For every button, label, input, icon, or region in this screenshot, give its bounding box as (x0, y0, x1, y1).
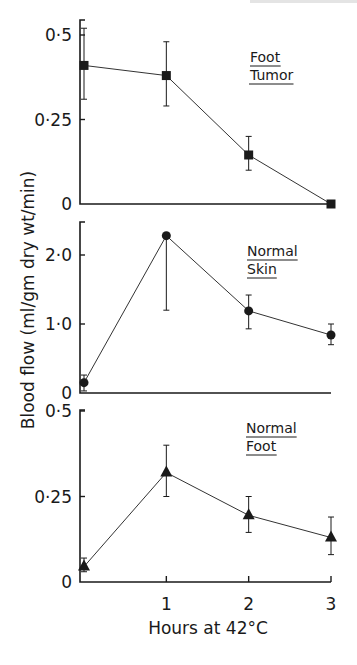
y-axis-title: Blood flow (ml/gm dry wt/min) (18, 171, 38, 429)
blood-flow-chart: 00·250·5FootTumor01·02·0NormalSkin00·250… (0, 0, 357, 665)
panel-label-line2: Tumor (249, 67, 294, 83)
circle-marker (244, 306, 253, 315)
y-tick-label: 0 (61, 572, 72, 592)
panel-label-line1: Normal (246, 420, 297, 436)
y-tick-label: 0 (61, 383, 72, 403)
x-tick-label: 1 (161, 594, 172, 614)
y-tick-label: 0·25 (34, 110, 72, 130)
panel-foot-tumor: 00·250·5FootTumor (34, 20, 335, 214)
square-marker (327, 200, 336, 209)
y-tick-label: 1·0 (45, 314, 72, 334)
panel-label-line1: Foot (250, 49, 281, 65)
circle-marker (327, 331, 336, 340)
x-tick-label: 3 (326, 594, 337, 614)
panel-label-line1: Normal (247, 243, 298, 259)
square-marker (80, 61, 89, 70)
y-tick-label: 0·25 (34, 487, 72, 507)
series-line (84, 473, 331, 567)
axis-lines (80, 20, 331, 204)
panel-normal-skin: 01·02·0NormalSkin (45, 222, 336, 403)
panel-label-line2: Foot (246, 438, 277, 454)
x-tick-label: 2 (243, 594, 254, 614)
x-axis-title: Hours at 42°C (148, 618, 268, 638)
square-marker (162, 71, 171, 80)
y-tick-label: 0·5 (45, 25, 72, 45)
triangle-marker (243, 508, 255, 519)
square-marker (244, 150, 253, 159)
y-tick-label: 2·0 (45, 245, 72, 265)
y-tick-label: 0 (61, 194, 72, 214)
panel-normal-foot: 00·250·5NormalFoot (34, 401, 337, 592)
panel-label-line2: Skin (247, 261, 277, 277)
y-tick-label: 0·5 (45, 401, 72, 421)
series-line (84, 65, 331, 204)
triangle-marker (160, 466, 172, 477)
circle-marker (162, 231, 171, 240)
circle-marker (80, 378, 89, 387)
chart-panels: 00·250·5FootTumor01·02·0NormalSkin00·250… (34, 20, 337, 592)
